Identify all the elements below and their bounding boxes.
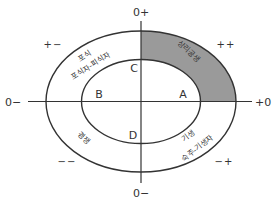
axis-label-right: +0 (255, 96, 271, 109)
sign-top-right: ++ (217, 39, 236, 50)
symbiosis-diagram: 0+ 0− 0− +0 +− ++ −− −+ A B C D 포식 포식자-피… (0, 0, 279, 202)
sign-bottom-right: −+ (215, 156, 234, 167)
sign-bottom-left: −− (58, 156, 77, 167)
label-parasitism: 기생 (180, 127, 197, 143)
point-a: A (179, 88, 187, 101)
point-c: C (130, 62, 138, 75)
axis-label-left: 0− (5, 96, 21, 109)
axis-label-bottom: 0− (133, 187, 149, 200)
point-b: B (95, 88, 103, 101)
point-d: D (129, 129, 137, 142)
label-competition: 경쟁 (75, 129, 92, 146)
axis-label-top: 0+ (133, 6, 149, 19)
sign-top-left: +− (44, 39, 63, 50)
